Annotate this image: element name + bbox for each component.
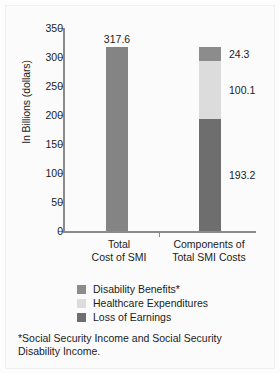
legend-item: Loss of Earnings <box>77 311 208 324</box>
bar-segment <box>199 47 221 61</box>
bar-value-label: 317.6 <box>97 33 137 45</box>
y-axis-tick-label: 200 <box>29 109 63 121</box>
legend-item: Disability Benefits* <box>77 283 208 296</box>
category-label-line: Total SMI Costs <box>161 251 257 264</box>
x-axis-category-divider <box>159 232 160 237</box>
y-axis-tick-label: 350 <box>29 22 63 34</box>
bar-value-label: 100.1 <box>229 84 255 96</box>
figure-footnote: *Social Security Income and Social Secur… <box>18 332 258 357</box>
y-axis-tick-label: 0 <box>29 225 63 237</box>
legend-label: Disability Benefits* <box>93 283 180 295</box>
legend-label: Loss of Earnings <box>93 311 171 323</box>
legend-item: Healthcare Expenditures <box>77 297 208 310</box>
footnote-line: Disability Income. <box>18 345 258 358</box>
bar-segment <box>199 61 221 119</box>
y-axis-tick-label: 150 <box>29 138 63 150</box>
footnote-line: *Social Security Income and Social Secur… <box>18 332 258 345</box>
legend-swatch-icon <box>77 313 86 322</box>
chart-legend: Disability Benefits*Healthcare Expenditu… <box>77 283 208 325</box>
bar-value-label: 24.3 <box>229 48 249 60</box>
legend-swatch-icon <box>77 285 86 294</box>
bar-segment <box>106 47 128 231</box>
category-label-components-of-total-smi-costs: Components of Total SMI Costs <box>161 238 257 263</box>
bar-value-label: 193.2 <box>229 169 255 181</box>
y-axis-tick-label: 50 <box>29 196 63 208</box>
y-axis-line <box>63 28 65 232</box>
category-label-line: Cost of SMI <box>81 251 157 264</box>
chart-figure: In Billions (dollars) 350300250200150100… <box>0 0 280 374</box>
bar-segment <box>199 119 221 231</box>
y-axis-tick-label: 300 <box>29 51 63 63</box>
y-axis-tick-label: 100 <box>29 167 63 179</box>
category-label-total-cost-of-smi: Total Cost of SMI <box>81 238 157 263</box>
category-label-line: Components of <box>161 238 257 251</box>
legend-swatch-icon <box>77 299 86 308</box>
legend-label: Healthcare Expenditures <box>93 297 208 309</box>
category-label-line: Total <box>81 238 157 251</box>
y-axis-tick-label: 250 <box>29 80 63 92</box>
